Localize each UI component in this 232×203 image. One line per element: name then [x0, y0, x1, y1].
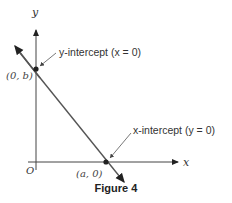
intercepts-diagram: y x O (0, b) (a, 0) y-intercept (x = 0) …: [0, 0, 232, 203]
y-intercept-point: [33, 66, 38, 71]
y-intercept-leader: [40, 53, 56, 66]
x-intercept-coord: (a, 0): [76, 168, 103, 179]
x-axis-label: x: [183, 156, 190, 169]
y-intercept-coord: (0, b): [6, 70, 33, 81]
x-intercept-point: [103, 159, 108, 164]
x-intercept-annotation: x-intercept (y = 0): [133, 124, 215, 136]
y-intercept-annotation: y-intercept (x = 0): [59, 46, 141, 58]
figure-caption: Figure 4: [0, 182, 232, 194]
y-axis-label: y: [31, 6, 39, 19]
x-intercept-leader: [110, 133, 131, 158]
origin-label: O: [26, 165, 34, 176]
